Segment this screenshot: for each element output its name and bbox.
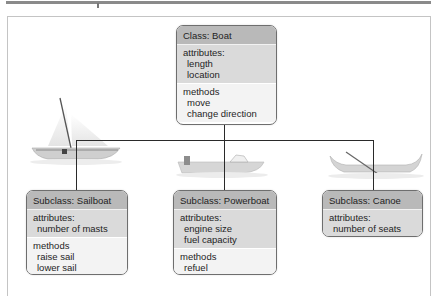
methods-section: methods move change direction <box>177 84 276 122</box>
methods-label: methods <box>33 240 121 251</box>
attribute-item: location <box>183 69 270 80</box>
top-rule-tick <box>97 3 99 8</box>
connector-horizontal <box>76 140 374 141</box>
methods-section: methods refuel <box>174 249 276 275</box>
method-item: change direction <box>183 108 270 119</box>
attribute-item: fuel capacity <box>180 234 270 245</box>
class-box-powerboat: Subclass: Powerboat attributes: engine s… <box>173 190 277 275</box>
connector-canoe <box>373 140 374 190</box>
sailboat-icon <box>18 96 128 168</box>
class-title: Class: Boat <box>177 26 276 45</box>
methods-label: methods <box>180 251 270 262</box>
attribute-item: length <box>183 58 270 69</box>
powerboat-icon <box>172 150 272 180</box>
method-item: lower sail <box>33 262 121 273</box>
class-title: Subclass: Powerboat <box>174 191 276 210</box>
attribute-item: engine size <box>180 223 270 234</box>
method-item: raise sail <box>33 251 121 262</box>
method-item: refuel <box>180 262 270 273</box>
class-title: Subclass: Sailboat <box>27 191 127 210</box>
top-rule <box>6 1 431 4</box>
attribute-item: number of seats <box>329 223 416 234</box>
class-box-canoe: Subclass: Canoe attributes: number of se… <box>322 190 423 237</box>
attributes-label: attributes: <box>33 212 121 223</box>
connector-parent-down <box>224 124 225 190</box>
methods-label: methods <box>183 86 270 97</box>
attributes-section: attributes: engine size fuel capacity <box>174 210 276 249</box>
attribute-item: number of masts <box>33 223 121 234</box>
attributes-section: attributes: number of masts <box>27 210 127 238</box>
attributes-label: attributes: <box>329 212 416 223</box>
attributes-label: attributes: <box>183 47 270 58</box>
attributes-section: attributes: number of seats <box>323 210 422 237</box>
class-title: Subclass: Canoe <box>323 191 422 210</box>
method-item: move <box>183 97 270 108</box>
attributes-section: attributes: length location <box>177 45 276 84</box>
class-box-boat: Class: Boat attributes: length location … <box>176 25 277 125</box>
attributes-label: attributes: <box>180 212 270 223</box>
class-box-sailboat: Subclass: Sailboat attributes: number of… <box>26 190 128 275</box>
methods-section: methods raise sail lower sail <box>27 238 127 275</box>
connector-sailboat <box>76 140 77 190</box>
canoe-icon <box>326 150 426 180</box>
